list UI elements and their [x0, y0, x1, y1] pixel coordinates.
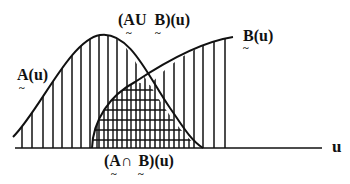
tilde-b: ~: [243, 42, 249, 53]
label-intersection-op: ∩: [121, 152, 133, 169]
label-a-rest: (u): [29, 66, 49, 83]
union-vertical-hatch: [22, 20, 225, 148]
fuzzy-set-union-intersection-diagram: u A(u) ~ B(u) ~ (AUB)(u) ~ ~ (A∩B)(u) ~ …: [0, 0, 350, 184]
tilde-intersection-a: ~: [111, 168, 117, 179]
tilde-union-b: ~: [155, 27, 161, 38]
tilde-a: ~: [19, 82, 25, 93]
label-union-op: U: [135, 11, 147, 28]
tilde-intersection-b: ~: [138, 168, 144, 179]
label-b-rest: (u): [254, 27, 274, 44]
axis-label-u: u: [332, 138, 341, 155]
label-union-rest: )(u): [165, 11, 190, 28]
tilde-union-a: ~: [126, 27, 132, 38]
label-intersection-rest: )(u): [149, 152, 174, 169]
